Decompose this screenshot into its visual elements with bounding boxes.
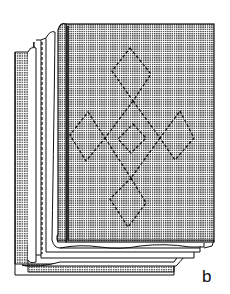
top-panel: [57, 24, 214, 248]
illustration: [0, 0, 230, 294]
figure-label: b: [202, 268, 211, 285]
